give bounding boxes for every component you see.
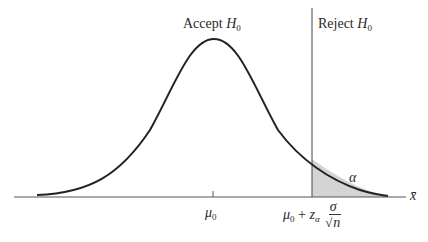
- accept-text: Accept: [183, 16, 226, 31]
- z-subscript: α: [315, 214, 320, 224]
- root-n: √n: [325, 215, 341, 230]
- x-bar-axis-label: x̄: [410, 188, 416, 204]
- reject-h-subscript: 0: [367, 23, 372, 33]
- mu-symbol: μ: [205, 205, 212, 220]
- plus-sign: +: [295, 207, 310, 222]
- mu0-label: μ0: [205, 205, 217, 222]
- alpha-label: α: [349, 170, 356, 186]
- crit-mu-symbol: μ: [283, 207, 290, 222]
- mu-subscript: 0: [212, 212, 217, 222]
- critical-value-label: μ0 + zα σ √n: [283, 200, 341, 230]
- sigma-over-root-n: σ √n: [325, 200, 341, 230]
- accept-h0-label: Accept H0: [183, 16, 241, 33]
- accept-h-subscript: 0: [236, 23, 241, 33]
- reject-text: Reject: [318, 16, 357, 31]
- accept-h-symbol: H: [226, 16, 236, 31]
- sigma-symbol: σ: [329, 200, 338, 215]
- reject-h-symbol: H: [357, 16, 367, 31]
- n-symbol: n: [332, 214, 341, 230]
- reject-h0-label: Reject H0: [318, 16, 372, 33]
- normal-curve: [37, 39, 388, 196]
